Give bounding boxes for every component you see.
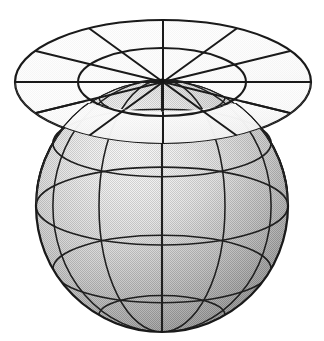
figure-root: Sphere with tangent plane at the north p… (0, 0, 324, 341)
tangency-point (159, 78, 164, 83)
stereographic-projection-figure: Sphere with tangent plane at the north p… (0, 0, 324, 341)
